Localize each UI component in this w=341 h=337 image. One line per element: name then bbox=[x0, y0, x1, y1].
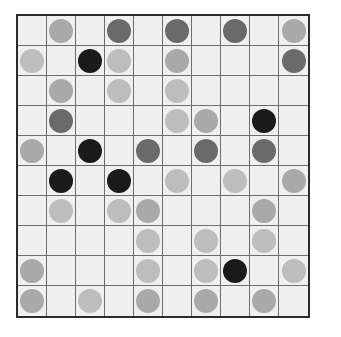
board-cell[interactable] bbox=[47, 226, 76, 256]
board-cell[interactable] bbox=[105, 256, 134, 286]
board-cell[interactable] bbox=[221, 46, 250, 76]
game-piece-lighter[interactable] bbox=[136, 259, 160, 283]
board-cell[interactable] bbox=[163, 256, 192, 286]
game-piece-light[interactable] bbox=[49, 19, 73, 43]
board-cell[interactable] bbox=[279, 106, 308, 136]
game-piece-lighter[interactable] bbox=[165, 169, 189, 193]
game-piece-black[interactable] bbox=[78, 139, 102, 163]
game-piece-lighter[interactable] bbox=[107, 49, 131, 73]
board-cell[interactable] bbox=[192, 76, 221, 106]
game-piece-lighter[interactable] bbox=[165, 109, 189, 133]
board-cell[interactable] bbox=[18, 196, 47, 226]
board-cell[interactable] bbox=[134, 166, 163, 196]
board-cell[interactable] bbox=[279, 256, 308, 286]
board-cell[interactable] bbox=[192, 226, 221, 256]
game-piece-light[interactable] bbox=[20, 259, 44, 283]
game-piece-light[interactable] bbox=[252, 289, 276, 313]
board-cell[interactable] bbox=[105, 286, 134, 316]
board-cell[interactable] bbox=[76, 46, 105, 76]
board-cell[interactable] bbox=[192, 46, 221, 76]
game-piece-light[interactable] bbox=[20, 289, 44, 313]
board-cell[interactable] bbox=[105, 196, 134, 226]
board-cell[interactable] bbox=[18, 46, 47, 76]
board-cell[interactable] bbox=[192, 106, 221, 136]
board-cell[interactable] bbox=[250, 136, 279, 166]
game-piece-lighter[interactable] bbox=[282, 259, 306, 283]
game-piece-black[interactable] bbox=[223, 259, 247, 283]
board-cell[interactable] bbox=[163, 196, 192, 226]
board-cell[interactable] bbox=[18, 286, 47, 316]
board-cell[interactable] bbox=[250, 226, 279, 256]
board-cell[interactable] bbox=[279, 196, 308, 226]
game-piece-light[interactable] bbox=[282, 169, 306, 193]
board-cell[interactable] bbox=[250, 46, 279, 76]
board-cell[interactable] bbox=[221, 106, 250, 136]
board-cell[interactable] bbox=[221, 286, 250, 316]
board-cell[interactable] bbox=[105, 226, 134, 256]
board-cell[interactable] bbox=[192, 256, 221, 286]
board-cell[interactable] bbox=[250, 76, 279, 106]
game-piece-lighter[interactable] bbox=[194, 259, 218, 283]
game-piece-light[interactable] bbox=[49, 79, 73, 103]
game-piece-dark[interactable] bbox=[107, 19, 131, 43]
board-cell[interactable] bbox=[76, 16, 105, 46]
board-cell[interactable] bbox=[279, 286, 308, 316]
game-piece-lighter[interactable] bbox=[223, 169, 247, 193]
board-cell[interactable] bbox=[192, 286, 221, 316]
board-cell[interactable] bbox=[250, 286, 279, 316]
board-cell[interactable] bbox=[163, 166, 192, 196]
board-cell[interactable] bbox=[279, 136, 308, 166]
board-cell[interactable] bbox=[47, 256, 76, 286]
board-cell[interactable] bbox=[76, 196, 105, 226]
game-piece-light[interactable] bbox=[194, 109, 218, 133]
board-cell[interactable] bbox=[250, 196, 279, 226]
board-cell[interactable] bbox=[18, 106, 47, 136]
board-cell[interactable] bbox=[163, 136, 192, 166]
board-cell[interactable] bbox=[47, 16, 76, 46]
game-piece-dark[interactable] bbox=[136, 139, 160, 163]
board-cell[interactable] bbox=[47, 196, 76, 226]
game-piece-black[interactable] bbox=[78, 49, 102, 73]
board-cell[interactable] bbox=[47, 136, 76, 166]
board-cell[interactable] bbox=[192, 196, 221, 226]
board-cell[interactable] bbox=[279, 76, 308, 106]
board-cell[interactable] bbox=[192, 136, 221, 166]
board-cell[interactable] bbox=[134, 136, 163, 166]
game-piece-black[interactable] bbox=[107, 169, 131, 193]
game-piece-black[interactable] bbox=[49, 169, 73, 193]
board-cell[interactable] bbox=[250, 256, 279, 286]
board-cell[interactable] bbox=[134, 16, 163, 46]
board-cell[interactable] bbox=[221, 16, 250, 46]
board-cell[interactable] bbox=[250, 106, 279, 136]
board-cell[interactable] bbox=[76, 106, 105, 136]
game-piece-light[interactable] bbox=[252, 199, 276, 223]
board-cell[interactable] bbox=[250, 166, 279, 196]
board-cell[interactable] bbox=[279, 226, 308, 256]
board-cell[interactable] bbox=[105, 136, 134, 166]
game-piece-lighter[interactable] bbox=[107, 199, 131, 223]
board-cell[interactable] bbox=[134, 256, 163, 286]
board-cell[interactable] bbox=[134, 196, 163, 226]
game-piece-dark[interactable] bbox=[194, 139, 218, 163]
game-piece-lighter[interactable] bbox=[49, 199, 73, 223]
board-cell[interactable] bbox=[18, 256, 47, 286]
game-piece-light[interactable] bbox=[136, 199, 160, 223]
board-cell[interactable] bbox=[163, 46, 192, 76]
board-cell[interactable] bbox=[47, 106, 76, 136]
game-piece-dark[interactable] bbox=[49, 109, 73, 133]
game-piece-lighter[interactable] bbox=[20, 49, 44, 73]
board-cell[interactable] bbox=[192, 166, 221, 196]
game-piece-dark[interactable] bbox=[223, 19, 247, 43]
board-cell[interactable] bbox=[134, 226, 163, 256]
board-cell[interactable] bbox=[105, 16, 134, 46]
board-cell[interactable] bbox=[18, 166, 47, 196]
board-cell[interactable] bbox=[76, 136, 105, 166]
board-cell[interactable] bbox=[47, 46, 76, 76]
board-cell[interactable] bbox=[134, 76, 163, 106]
board-cell[interactable] bbox=[105, 46, 134, 76]
board-cell[interactable] bbox=[221, 226, 250, 256]
game-piece-black[interactable] bbox=[252, 109, 276, 133]
board-cell[interactable] bbox=[47, 166, 76, 196]
game-piece-dark[interactable] bbox=[252, 139, 276, 163]
game-piece-light[interactable] bbox=[136, 289, 160, 313]
